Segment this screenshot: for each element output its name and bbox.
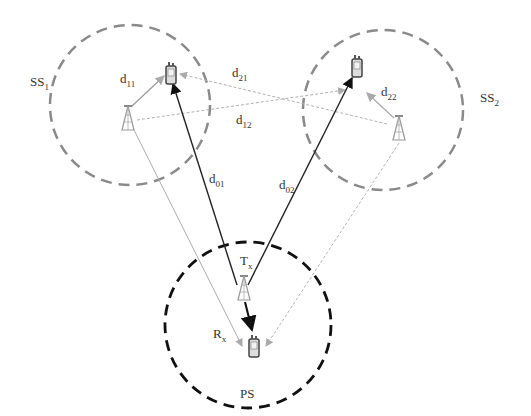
link-d11 xyxy=(131,76,164,107)
network-diagram: SS1 SS2 PS d11 d21 d12 d22 d01 d02 Tx Rx xyxy=(0,0,531,416)
link-ss1-to-ps xyxy=(134,130,242,346)
ss2-label: SS2 xyxy=(480,90,499,108)
ss1-label: SS1 xyxy=(30,74,49,92)
link-ps-tx-rx xyxy=(245,302,252,330)
tx-label: Tx xyxy=(240,253,253,271)
d01-label: d01 xyxy=(209,171,225,189)
d21-label: d21 xyxy=(232,65,248,83)
ss2-phone-icon xyxy=(352,55,362,77)
ss1-tower-icon xyxy=(122,106,134,130)
ss2-tower-icon xyxy=(393,116,405,140)
ss1-phone-icon xyxy=(166,62,176,84)
link-d02 xyxy=(248,78,352,285)
link-ss2-to-ps xyxy=(266,143,399,346)
ps-label: PS xyxy=(240,386,254,401)
d12-label: d12 xyxy=(236,112,252,130)
ps-tower-icon xyxy=(238,276,250,300)
d11-label: d11 xyxy=(120,71,135,89)
ps-phone-icon xyxy=(249,335,259,357)
d02-label: d02 xyxy=(279,177,295,195)
d22-label: d22 xyxy=(381,84,397,102)
rx-label: Rx xyxy=(213,326,227,344)
